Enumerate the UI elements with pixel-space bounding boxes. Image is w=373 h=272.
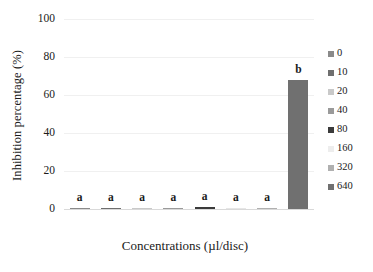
bar-slot[interactable]: a (101, 19, 121, 209)
legend-label: 40 (337, 105, 348, 116)
bar[interactable] (101, 208, 121, 209)
legend-label: 10 (337, 67, 348, 78)
legend-item[interactable]: 320 (328, 158, 373, 177)
legend-swatch-icon (328, 165, 334, 171)
bar-series: aaaaaaab (64, 19, 314, 209)
legend-label: 20 (337, 86, 348, 97)
bar-slot[interactable]: a (163, 19, 183, 209)
legend-item[interactable]: 640 (328, 177, 373, 196)
y-axis-tick-label: 20 (15, 165, 55, 177)
y-axis-tick-label: 60 (15, 89, 55, 101)
bar[interactable] (226, 208, 246, 209)
bar-chart: Inhibition percentage (%) 020406080100 a… (0, 0, 373, 272)
legend-item[interactable]: 80 (328, 120, 373, 139)
y-axis-title: Inhibition percentage (%) (10, 16, 25, 216)
y-axis-tick-label: 40 (15, 127, 55, 139)
bar-slot[interactable]: a (70, 19, 90, 209)
legend-label: 0 (337, 48, 342, 59)
bar[interactable] (70, 208, 90, 209)
y-axis-tick-label: 80 (15, 51, 55, 63)
legend-label: 320 (337, 162, 353, 173)
legend-swatch-icon (328, 70, 334, 76)
bar-significance-label: a (247, 192, 287, 204)
bar-slot[interactable]: a (226, 19, 246, 209)
bar[interactable] (257, 208, 277, 209)
y-axis-tick-label: 100 (15, 13, 55, 25)
x-axis-title: Concentrations (µl/disc) (40, 238, 330, 254)
legend-swatch-icon (328, 89, 334, 95)
gridline (64, 209, 314, 210)
legend-item[interactable]: 10 (328, 63, 373, 82)
legend-swatch-icon (328, 51, 334, 57)
bar-slot[interactable]: a (195, 19, 215, 209)
bar-slot[interactable]: a (257, 19, 277, 209)
legend-label: 640 (337, 181, 353, 192)
legend-item[interactable]: 160 (328, 139, 373, 158)
plot-area: aaaaaaab (64, 19, 314, 209)
bar-slot[interactable]: a (132, 19, 152, 209)
legend-swatch-icon (328, 146, 334, 152)
y-axis-tick-label: 0 (15, 203, 55, 215)
legend-swatch-icon (328, 127, 334, 133)
bar[interactable] (288, 80, 308, 209)
legend-item[interactable]: 20 (328, 82, 373, 101)
bar[interactable] (132, 208, 152, 209)
bar-slot[interactable]: b (288, 19, 308, 209)
bar[interactable] (195, 207, 215, 209)
legend-label: 80 (337, 124, 348, 135)
legend-label: 160 (337, 143, 353, 154)
legend-swatch-icon (328, 108, 334, 114)
bar[interactable] (163, 208, 183, 209)
legend-item[interactable]: 0 (328, 44, 373, 63)
legend: 010204080160320640 (328, 44, 373, 196)
legend-swatch-icon (328, 184, 334, 190)
bar-significance-label: b (278, 64, 318, 76)
legend-item[interactable]: 40 (328, 101, 373, 120)
